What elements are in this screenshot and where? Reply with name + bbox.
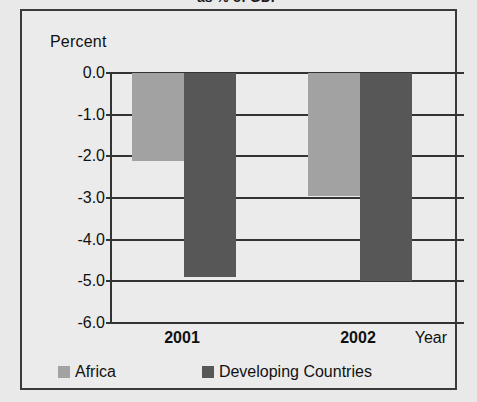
legend-item-africa: Africa [58,363,116,381]
plot-area: 0.0-1.0-2.0-3.0-4.0-5.0-6.0 [110,73,462,323]
y-tick-mark [106,114,112,116]
y-tick-mark [106,155,112,157]
gridline [112,322,464,324]
y-tick-label: -1.0 [77,106,105,124]
y-axis-title: Percent [50,33,107,51]
plot-inner: 0.0-1.0-2.0-3.0-4.0-5.0-6.0 [112,73,462,323]
y-tick-label: 0.0 [83,64,105,82]
x-axis-title: Year [415,329,447,347]
x-tick-label: 2001 [164,329,200,347]
bar [308,73,360,196]
y-tick-mark [106,72,112,74]
chart-legend: Africa Developing Countries [58,363,372,381]
y-tick-mark [106,239,112,241]
chart-frame: Percent 0.0-1.0-2.0-3.0-4.0-5.0-6.0 2001… [20,9,457,390]
y-tick-label: -5.0 [77,272,105,290]
chart-title: as % of GDP [0,0,477,5]
y-tick-mark [106,280,112,282]
y-tick-label: -2.0 [77,147,105,165]
y-tick-label: -4.0 [77,231,105,249]
chart-screenshot: as % of GDP Percent 0.0-1.0-2.0-3.0-4.0-… [0,0,477,402]
legend-swatch-icon-developing-countries [202,366,214,378]
legend-swatch-icon-africa [58,366,70,378]
chart-title-strip: as % of GDP [0,0,477,9]
y-tick-mark [106,322,112,324]
y-tick-label: -3.0 [77,189,105,207]
bar [184,73,236,277]
y-tick-mark [106,197,112,199]
x-tick-label: 2002 [340,329,376,347]
y-tick-label: -6.0 [77,314,105,332]
legend-label-africa: Africa [75,363,116,381]
bar [132,73,184,161]
legend-label-developing-countries: Developing Countries [219,363,372,381]
bar [360,73,412,281]
legend-item-developing-countries: Developing Countries [202,363,372,381]
